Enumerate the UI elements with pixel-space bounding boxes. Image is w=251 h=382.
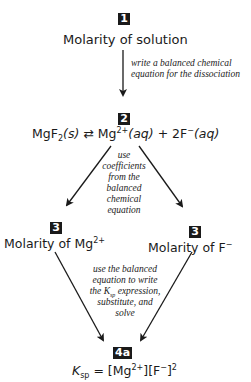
arrow-3-note: use the balanced equation to write the K… bbox=[80, 264, 170, 319]
equilibrium-arrow-icon: ⇄ bbox=[83, 126, 93, 141]
step-1-title: Molarity of solution bbox=[63, 32, 188, 47]
step-4a-badge: 4a bbox=[113, 347, 132, 359]
step-3-right-badge: 3 bbox=[189, 226, 201, 238]
step-3-left-badge: 3 bbox=[50, 222, 62, 234]
ksp-expression: Ksp = [Mg2+][F−]2 bbox=[72, 363, 177, 378]
step-1-badge: 1 bbox=[118, 13, 130, 25]
dissociation-equation: MgF2(s) ⇄ Mg2+(aq) + 2F−(aq) bbox=[32, 126, 219, 141]
molarity-mg-title: Molarity of Mg2+ bbox=[4, 236, 105, 251]
arrow-1-note: write a balanced chemical equation for t… bbox=[131, 58, 240, 80]
molarity-f-title: Molarity of F− bbox=[148, 240, 232, 255]
arrow-2-note: use coefficients from the balanced chemi… bbox=[98, 150, 150, 216]
step-2-badge: 2 bbox=[118, 113, 130, 125]
